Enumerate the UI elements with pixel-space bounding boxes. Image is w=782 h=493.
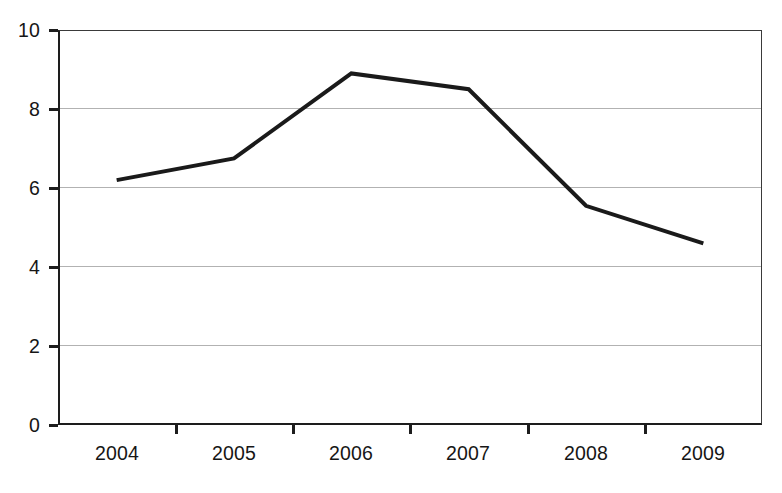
x-axis-label-2004: 2004 [95, 443, 139, 464]
y-axis-tick [49, 266, 58, 269]
line-chart: 10 8 6 4 2 0 2004 2005 2006 2007 2008 20… [0, 0, 782, 493]
y-axis-tick [49, 345, 58, 348]
y-axis-label-6: 6 [6, 179, 40, 199]
gridline-y [60, 108, 761, 109]
x-axis-tick [175, 425, 178, 434]
gridline-y [60, 266, 761, 267]
x-axis-label-2007: 2007 [446, 443, 490, 464]
y-axis-tick [49, 424, 58, 427]
y-axis-tick [49, 108, 58, 111]
x-axis-tick [527, 425, 530, 434]
y-axis-label-0: 0 [6, 416, 40, 436]
x-axis-label-2005: 2005 [212, 443, 256, 464]
y-axis-label-8: 8 [6, 100, 40, 120]
x-axis-label-2009: 2009 [681, 443, 725, 464]
y-axis-tick [49, 187, 58, 190]
x-axis-tick [409, 425, 412, 434]
plot-area [58, 30, 762, 425]
x-axis-tick [292, 425, 295, 434]
y-axis-label-10: 10 [6, 21, 40, 41]
x-axis-label-2008: 2008 [564, 443, 608, 464]
x-axis-tick [644, 425, 647, 434]
y-axis-tick [49, 29, 58, 32]
gridline-y [60, 345, 761, 346]
x-axis-label-2006: 2006 [329, 443, 373, 464]
y-axis-label-2: 2 [6, 337, 40, 357]
y-axis-label-4: 4 [6, 258, 40, 278]
gridline-y [60, 187, 761, 188]
